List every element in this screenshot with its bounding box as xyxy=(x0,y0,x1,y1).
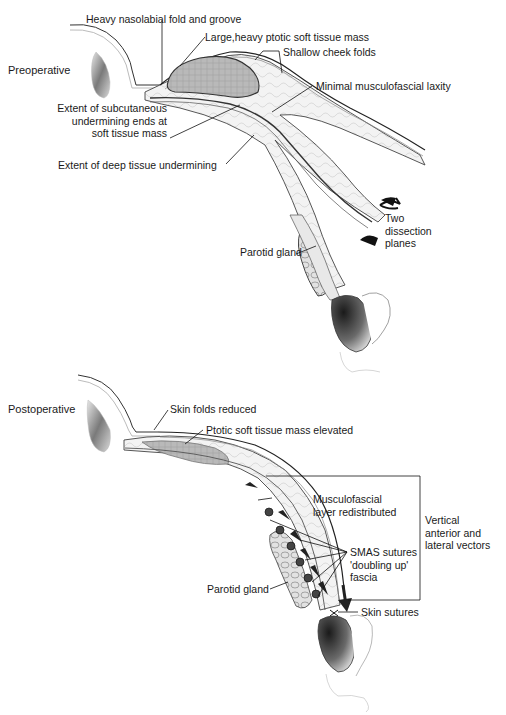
label-smas-line3: fascia xyxy=(350,571,417,584)
label-dissection-line2: dissection xyxy=(385,225,432,238)
label-parotid-gland-pre: Parotid gland xyxy=(240,246,302,259)
label-subcutaneous-line3: soft tissue mass xyxy=(40,127,167,140)
label-subcutaneous-undermining: Extent of subcutaneous undermining ends … xyxy=(40,102,167,140)
label-vectors-line1: Vertical xyxy=(425,514,490,527)
label-subcutaneous-line1: Extent of subcutaneous xyxy=(40,102,167,115)
label-musculofascial-redistributed: Musculofascial layer redistributed xyxy=(313,493,396,518)
label-vectors-line3: lateral vectors xyxy=(425,539,490,552)
facelift-diagram: Preoperative Heavy nasolabial fold and g… xyxy=(0,0,506,715)
label-smas-line2: 'doubling up' xyxy=(350,559,417,572)
label-musculofascial-line1: Musculofascial xyxy=(313,493,396,506)
label-two-dissection-planes: Two dissection planes xyxy=(385,212,432,250)
label-shallow-cheek-folds: Shallow cheek folds xyxy=(283,46,376,59)
label-nasolabial-fold: Heavy nasolabial fold and groove xyxy=(86,13,241,26)
label-musculofascial-line2: layer redistributed xyxy=(313,506,396,519)
label-parotid-gland-post: Parotid gland xyxy=(207,583,269,596)
label-smas-sutures: SMAS sutures 'doubling up' fascia xyxy=(350,546,417,584)
label-smas-line1: SMAS sutures xyxy=(350,546,417,559)
label-dissection-line3: planes xyxy=(385,237,432,250)
label-deep-tissue-undermining: Extent of deep tissue undermining xyxy=(58,159,217,172)
preoperative-title: Preoperative xyxy=(8,64,70,76)
label-mass-elevated: Ptotic soft tissue mass elevated xyxy=(206,424,353,437)
label-musculofascial-laxity: Minimal musculofascial laxity xyxy=(316,80,451,93)
label-ptotic-mass: Large,heavy ptotic soft tissue mass xyxy=(205,31,369,44)
label-subcutaneous-line2: undermining ends at xyxy=(40,115,167,128)
preoperative-illustration xyxy=(70,20,425,372)
label-vertical-vectors: Vertical anterior and lateral vectors xyxy=(425,514,490,552)
label-skin-sutures: Skin sutures xyxy=(361,606,419,619)
label-vectors-line2: anterior and xyxy=(425,527,490,540)
postoperative-title: Postoperative xyxy=(8,403,75,415)
label-skin-folds-reduced: Skin folds reduced xyxy=(170,403,256,416)
label-dissection-line1: Two xyxy=(385,212,432,225)
